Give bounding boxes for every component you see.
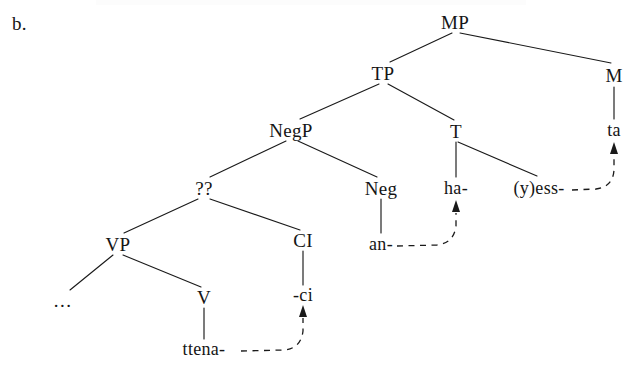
tree-node-mp: MP xyxy=(441,13,469,32)
movement-arrowhead-ta xyxy=(610,142,618,154)
edge-qq-vp xyxy=(124,199,198,233)
tree-node-m: M xyxy=(605,66,622,85)
tree-node-neg: Neg xyxy=(365,179,398,198)
movement-arrowhead-ci xyxy=(299,305,307,317)
edge-vp-v xyxy=(123,255,201,287)
tree-terminal-ta: ta xyxy=(607,121,621,140)
edge-mp-m xyxy=(460,33,611,63)
tree-node-tp: TP xyxy=(372,64,395,83)
tree-node-cl: CI xyxy=(293,231,313,250)
movement-arrow-an-to-ha xyxy=(397,213,456,246)
tree-terminal-an: an- xyxy=(369,235,393,254)
tree-node-t: T xyxy=(450,122,462,141)
tree-terminal-ci: -ci xyxy=(293,286,313,305)
edge-tp-t xyxy=(388,84,454,120)
tree-terminal-ha: ha- xyxy=(444,179,468,198)
syntax-tree-figure: b. xyxy=(0,0,639,372)
tree-terminal-yess: (y)ess- xyxy=(513,179,564,198)
tree-node-vp: VP xyxy=(106,235,131,254)
tree-terminal-ttena: ttena- xyxy=(183,340,226,359)
tree-node-negp: NegP xyxy=(269,121,312,140)
tree-node-unknown: ?? xyxy=(195,179,212,198)
movement-arrowhead-ha xyxy=(452,200,460,212)
edge-tp-negp xyxy=(300,84,379,119)
movement-arrow-ttena-to-ci xyxy=(241,318,303,351)
tree-node-v: V xyxy=(197,288,211,307)
edge-mp-tp xyxy=(390,33,452,62)
edge-negp-neg xyxy=(298,141,377,177)
edge-negp-qq xyxy=(210,141,286,177)
edge-vp-dots xyxy=(70,255,113,290)
movement-arrow-yess-to-ta xyxy=(572,155,614,190)
tree-terminal-ellipsis: ... xyxy=(54,291,73,310)
edge-qq-ci xyxy=(210,199,300,230)
edge-t-yess xyxy=(458,142,537,176)
